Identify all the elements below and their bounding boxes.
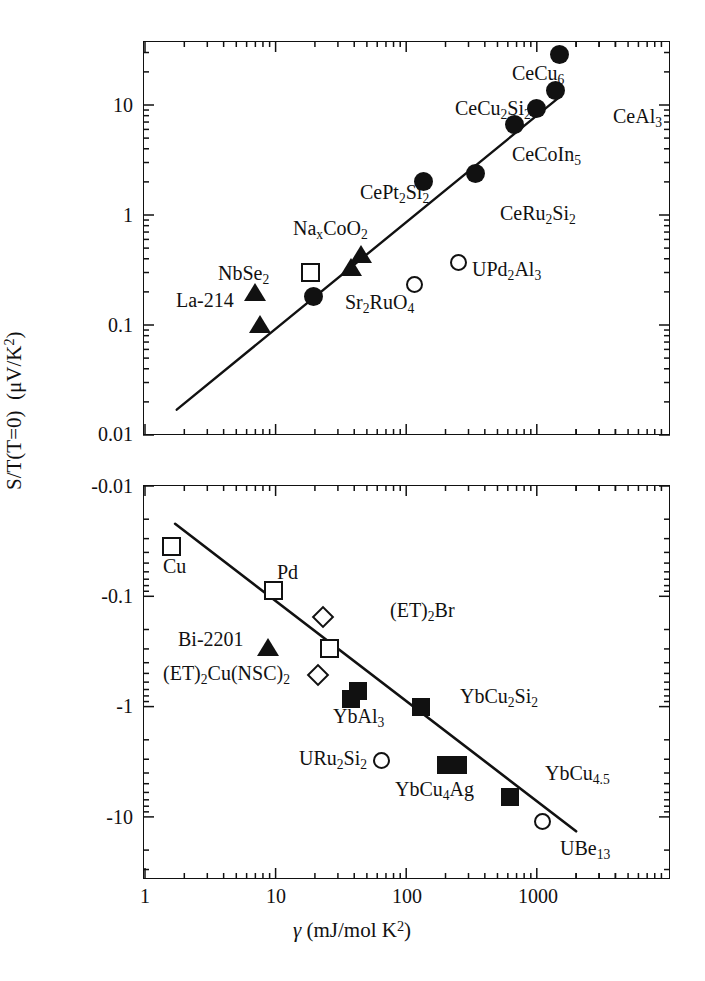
- annotation-(ET)2Cu(NSC)2: (ET)2Cu(NSC)2: [163, 663, 290, 690]
- x-axis-title: γ (mJ/mol K2): [293, 918, 411, 943]
- annotation-Bi-2201: Bi-2201: [178, 629, 244, 650]
- label-marker-UPd2Al3: [450, 254, 467, 271]
- xtick-1: 1: [140, 886, 150, 906]
- annotation-YbAl3: YbAl3: [333, 706, 384, 733]
- data-point-Cu: [162, 537, 181, 556]
- data-point-YbCu4Ag: [449, 756, 467, 774]
- lower-ytick--10: -10: [106, 807, 133, 827]
- annotation-UPd2Al3: UPd2Al3: [472, 259, 541, 286]
- lower-ytick--0.01: -0.01: [91, 476, 133, 496]
- annotation-YbCu4.5: YbCu4.5: [545, 763, 610, 790]
- annotation-Cu: Cu: [163, 556, 186, 577]
- annotation-CePt2Si2: CePt2Si2: [360, 182, 429, 209]
- data-point-La-214: [249, 315, 271, 333]
- lower-ytick--0.1: -0.1: [101, 586, 133, 606]
- annotation-NaxCoO2: NaxCoO2: [293, 218, 368, 245]
- annotation-La-214: La-214: [176, 290, 234, 311]
- annotation-YbCu2Si2: YbCu2Si2: [460, 686, 538, 713]
- xtick-100: 100: [392, 886, 422, 906]
- xtick-10: 10: [266, 886, 286, 906]
- upper-ytick-0.01: 0.01: [98, 424, 133, 444]
- lower-ytick--1: -1: [116, 696, 133, 716]
- annotation-NbSe2: NbSe2: [218, 263, 269, 290]
- upper-panel-frame: [143, 41, 670, 435]
- data-point-UPd2Al3: [406, 276, 423, 293]
- data-point-Bi-2201: [257, 638, 279, 656]
- annotation-(ET)2Br: (ET)2Br: [390, 600, 455, 627]
- annotation-Sr2RuO4: Sr2RuO4: [345, 292, 414, 319]
- figure-root: S/T(T=0) (μV/K2) γ (mJ/mol K2) 10 1 0.1 …: [0, 0, 705, 981]
- data-point-YbAl3: [349, 682, 367, 700]
- data-point-UBe13: [534, 813, 551, 830]
- upper-ytick-10: 10: [113, 95, 133, 115]
- annotation-URu2Si2: URu2Si2: [299, 748, 367, 775]
- upper-ytick-0.1: 0.1: [108, 315, 133, 335]
- annotation-YbCu4Ag: YbCu4Ag: [395, 779, 474, 806]
- annotation-CeRu2Si2: CeRu2Si2: [500, 203, 576, 230]
- data-point-YbCu4.5: [501, 788, 519, 806]
- xtick-1000: 1000: [518, 886, 558, 906]
- data-point-CeCu6: [550, 45, 569, 64]
- annotation-UBe13: UBe13: [560, 838, 610, 865]
- data-point-CeRu2Si2: [466, 164, 485, 183]
- y-axis-title: S/T(T=0) (μV/K2): [1, 331, 26, 490]
- annotation-CeCu6: CeCu6: [512, 63, 564, 90]
- annotation-CeCu2Si2: CeCu2Si2: [455, 98, 531, 125]
- annotation-Pd: Pd: [277, 562, 298, 583]
- annotation-CeAl3: CeAl3: [613, 106, 662, 133]
- data-point-Pd: [264, 581, 283, 600]
- upper-ytick-1: 1: [123, 205, 133, 225]
- data-point-NbSe2: [301, 263, 320, 282]
- annotation-CeCoIn5: CeCoIn5: [512, 144, 581, 171]
- data-point-Sr2RuO4: [304, 287, 323, 306]
- data-point-(ET)2Br: [320, 639, 339, 658]
- data-point-NaxCoO2: [350, 245, 372, 263]
- data-point-YbCu2Si2: [412, 698, 430, 716]
